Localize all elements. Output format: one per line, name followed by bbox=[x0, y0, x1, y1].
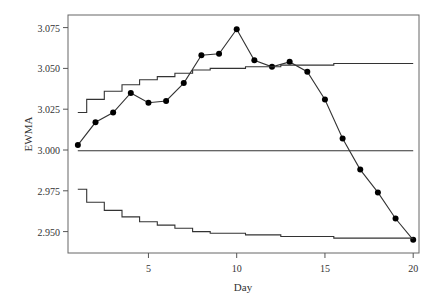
ewma-point bbox=[128, 90, 134, 96]
ewma-point bbox=[340, 136, 346, 142]
y-tick-label: 3.050 bbox=[38, 63, 61, 74]
y-tick-label: 2.975 bbox=[38, 186, 61, 197]
ewma-point bbox=[393, 216, 399, 222]
ewma-point bbox=[234, 26, 240, 32]
x-tick-label: 15 bbox=[320, 263, 330, 274]
ewma-point bbox=[110, 109, 116, 115]
ewma-control-chart: 2.9502.9753.0003.0253.0503.075 5101520 D… bbox=[0, 0, 437, 299]
x-axis-label: Day bbox=[234, 281, 253, 293]
x-tick-label: 5 bbox=[146, 263, 151, 274]
ewma-point bbox=[357, 167, 363, 173]
ewma-point bbox=[216, 51, 222, 57]
ewma-line bbox=[78, 29, 413, 240]
series-layer bbox=[75, 26, 416, 243]
ewma-point bbox=[181, 80, 187, 86]
plot-frame bbox=[68, 15, 419, 253]
lcl-line bbox=[78, 189, 413, 238]
ewma-point bbox=[304, 69, 310, 75]
ewma-point bbox=[163, 98, 169, 104]
y-axis: 2.9502.9753.0003.0253.0503.075 bbox=[38, 23, 69, 238]
ewma-point bbox=[75, 142, 81, 148]
y-tick-label: 3.075 bbox=[38, 23, 61, 34]
ucl-line bbox=[78, 64, 413, 113]
ewma-point bbox=[322, 96, 328, 102]
ewma-point bbox=[251, 57, 257, 63]
y-tick-label: 3.025 bbox=[38, 104, 61, 115]
x-axis: 5101520 bbox=[146, 253, 418, 274]
ewma-point bbox=[145, 100, 151, 106]
y-axis-label: EWMA bbox=[22, 117, 34, 152]
ewma-point bbox=[93, 119, 99, 125]
y-tick-label: 3.000 bbox=[38, 145, 61, 156]
ewma-point bbox=[198, 52, 204, 58]
y-tick-label: 2.950 bbox=[38, 227, 61, 238]
ewma-point bbox=[287, 59, 293, 65]
x-tick-label: 20 bbox=[408, 263, 418, 274]
x-tick-label: 10 bbox=[232, 263, 242, 274]
ewma-point bbox=[375, 189, 381, 195]
